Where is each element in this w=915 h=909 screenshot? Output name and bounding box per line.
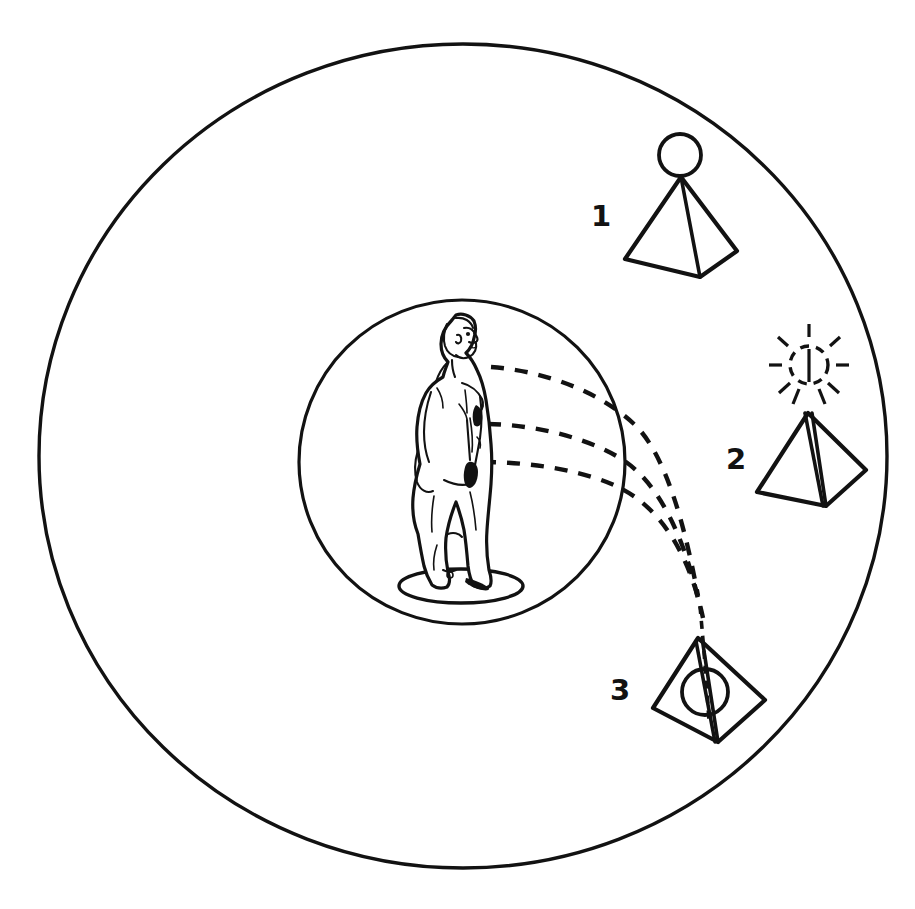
human-figure — [399, 314, 523, 603]
stage-2-pyramid-outline — [757, 413, 866, 506]
stage-3-label: 3 — [610, 673, 630, 707]
stage-1-orb-icon — [659, 134, 701, 176]
stage-2-label: 2 — [726, 442, 746, 476]
figure-knee — [448, 533, 462, 537]
emission-lines-group — [483, 367, 709, 722]
diagram-root: 1 2 — [0, 0, 915, 909]
dashed-line-head — [491, 367, 698, 596]
stage-2-radiance-rays-icon — [769, 324, 849, 404]
stage-1-label: 1 — [591, 199, 611, 233]
figure-platform — [399, 569, 523, 603]
stage-1-pyramid-outline — [625, 177, 737, 277]
pyramid-stage-2[interactable]: 2 — [726, 324, 866, 506]
diagram-canvas: 1 2 — [0, 0, 915, 909]
pyramid-stage-3[interactable]: 3 — [610, 638, 765, 742]
pyramid-stage-1[interactable]: 1 — [591, 134, 737, 277]
figure-eye — [466, 332, 470, 336]
